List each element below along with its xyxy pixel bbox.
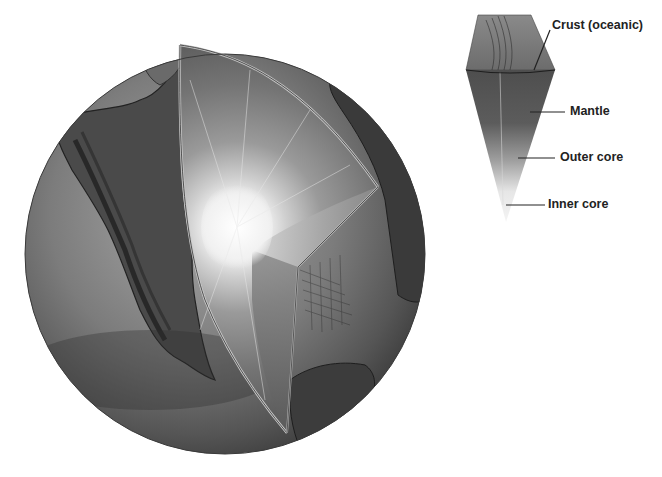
label-inner-core: Inner core (548, 197, 608, 211)
diagram-svg (0, 0, 662, 477)
earth-interior-diagram: Crust (oceanic) Mantle Outer core Inner … (0, 0, 662, 477)
label-mantle: Mantle (570, 104, 610, 118)
inset-crust-block (466, 15, 555, 70)
label-outer-core: Outer core (560, 150, 623, 164)
inset-layer-wedge (466, 15, 565, 222)
globe (20, 45, 428, 454)
landmass-south-america (289, 363, 374, 448)
label-crust-oceanic: Crust (oceanic) (552, 18, 643, 32)
inset-interior (466, 70, 555, 222)
